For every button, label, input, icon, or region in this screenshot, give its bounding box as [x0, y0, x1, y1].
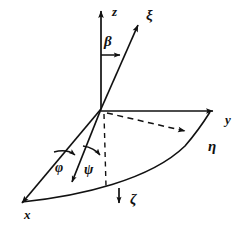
fixed-axes-group: [22, 11, 213, 203]
arc-group: [22, 112, 210, 202]
zeta-axis-dashed-drop: [104, 114, 106, 186]
x-axis-label: x: [24, 208, 31, 221]
x-axis-line: [22, 109, 101, 203]
eta-axis-dashed-ray: [107, 113, 185, 131]
phi-angle-label: φ: [55, 161, 63, 175]
eta-axis-label: η: [208, 139, 216, 154]
main-arc-curve: [22, 112, 210, 202]
figure-canvas: [0, 0, 245, 229]
y-axis-label: y: [225, 113, 231, 126]
psi-angle-label: ψ: [84, 163, 93, 177]
zeta-axis-label: ζ: [130, 192, 137, 207]
euler-angles-figure: z y x ξ η ζ β φ ψ: [0, 0, 245, 229]
z-axis-label: z: [112, 5, 117, 18]
rotated-axes-group: [101, 25, 185, 203]
xi-axis-label: ξ: [146, 8, 153, 23]
beta-angle-label: β: [104, 34, 112, 49]
angle-arcs-group: [54, 55, 120, 155]
